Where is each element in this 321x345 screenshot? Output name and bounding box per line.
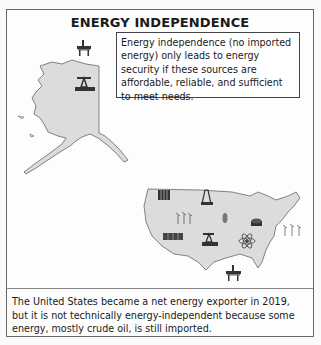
contiguous-us-map	[144, 189, 300, 270]
solar-panel-icon	[158, 190, 170, 200]
alaska-map	[18, 60, 128, 174]
offshore-wind-turbine-icon	[283, 224, 301, 236]
footer-text: The United States became a net energy ex…	[12, 296, 295, 334]
offshore-oil-rig-icon	[226, 265, 241, 281]
definition-callout: Energy independence (no imported energy)…	[116, 32, 300, 98]
solar-panel-icon	[163, 233, 183, 240]
footer-caption: The United States became a net energy ex…	[6, 288, 313, 342]
offshore-oil-rig-icon	[77, 40, 91, 56]
callout-text: Energy independence (no imported energy)…	[121, 37, 291, 102]
corn-biofuel-icon	[223, 213, 228, 223]
coal-cart-icon	[251, 219, 262, 227]
